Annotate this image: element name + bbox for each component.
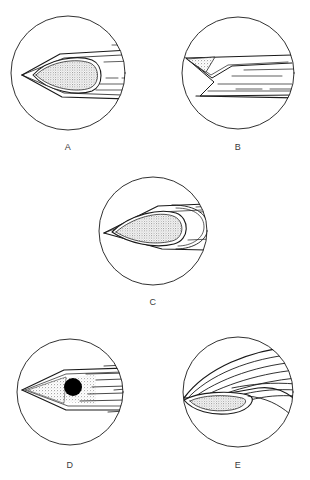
panel-b-circle <box>182 17 294 129</box>
panel-c-drawing <box>104 204 214 250</box>
figure-drawing <box>0 0 310 480</box>
panel-a-drawing <box>22 45 136 99</box>
panel-d-drawing <box>22 365 126 412</box>
panel-b-drawing <box>186 55 296 98</box>
panel-label-c: C <box>143 297 163 307</box>
figure-caption <box>0 469 310 480</box>
panel-d-spot <box>64 378 82 396</box>
panel-label-a: A <box>58 142 78 152</box>
figure-root: A B C D E <box>0 0 310 480</box>
panel-label-b: B <box>228 142 248 152</box>
